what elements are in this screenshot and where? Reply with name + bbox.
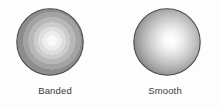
- banded-sphere-graphic: [16, 8, 84, 76]
- caption-smooth: Smooth: [110, 84, 220, 98]
- figure-container: Banded Smooth: [0, 0, 220, 107]
- panel-banded: Banded: [0, 0, 110, 107]
- caption-banded: Banded: [0, 84, 110, 98]
- smooth-sphere-graphic: [133, 8, 201, 76]
- panel-smooth: Smooth: [110, 0, 220, 107]
